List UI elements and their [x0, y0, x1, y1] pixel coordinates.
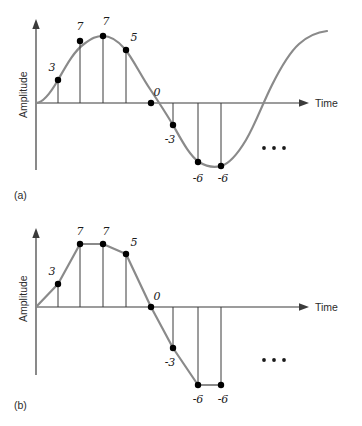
- sample-value-label: 5: [131, 31, 138, 44]
- sample-point: [100, 33, 106, 39]
- sample-value-label: -6: [218, 172, 229, 185]
- sample-value-label: 3: [49, 265, 56, 278]
- sample-value-label: 0: [154, 86, 161, 99]
- y-axis-label-b: Amplitude: [17, 275, 29, 322]
- sample-stems-b: [58, 244, 221, 385]
- ellipsis-b: [262, 358, 286, 362]
- sample-value-label: 0: [154, 290, 161, 303]
- x-axis-label-a: Time: [315, 97, 338, 109]
- sample-point: [195, 382, 201, 388]
- y-axis-b: [32, 228, 39, 375]
- figure-container: 3 7 7 5 0 -3 -6 -6 Time Amplitude (a): [0, 0, 362, 426]
- sample-value-label: -6: [218, 393, 229, 406]
- panel-b: 3 7 7 5 0 -3 -6 -6 Time Amplitude (b): [0, 213, 362, 426]
- panel-a: 3 7 7 5 0 -3 -6 -6 Time Amplitude (a): [0, 0, 362, 213]
- sample-value-label: -6: [193, 393, 204, 406]
- y-axis-a: [32, 19, 39, 170]
- sample-point: [123, 251, 129, 257]
- sample-point: [170, 122, 176, 128]
- x-axis-arrow-icon: [299, 303, 309, 310]
- sample-point: [100, 241, 106, 247]
- panel-label-b: (b): [14, 399, 27, 411]
- y-axis-label-a: Amplitude: [17, 71, 29, 118]
- sample-value-label: 7: [103, 15, 110, 28]
- sample-point: [195, 159, 201, 165]
- sample-value-label: 7: [103, 225, 110, 238]
- sample-point: [148, 304, 154, 310]
- sample-point: [170, 345, 176, 351]
- sample-point: [218, 382, 224, 388]
- sample-point: [148, 100, 154, 106]
- sample-value-label: 7: [77, 20, 84, 33]
- sample-point: [77, 241, 83, 247]
- sample-value-label: 5: [131, 236, 138, 249]
- sample-point: [55, 281, 61, 287]
- sample-value-label: -6: [193, 172, 204, 185]
- sample-point: [123, 47, 129, 53]
- sample-point: [77, 38, 83, 44]
- y-axis-arrow-icon: [32, 228, 39, 238]
- sample-value-label: -3: [165, 356, 176, 369]
- sample-stems-a: [58, 36, 221, 166]
- x-axis-arrow-icon: [299, 99, 309, 106]
- sample-value-label: 3: [49, 61, 56, 74]
- ellipsis-a: [262, 146, 286, 150]
- sample-point: [55, 77, 61, 83]
- sample-value-label: -3: [165, 133, 176, 146]
- x-axis-label-b: Time: [315, 301, 338, 313]
- panel-label-a: (a): [14, 189, 27, 201]
- piecewise-waveform-b: [36, 244, 221, 385]
- y-axis-arrow-icon: [32, 19, 39, 29]
- sample-point: [218, 163, 224, 169]
- sample-value-label: 7: [77, 225, 84, 238]
